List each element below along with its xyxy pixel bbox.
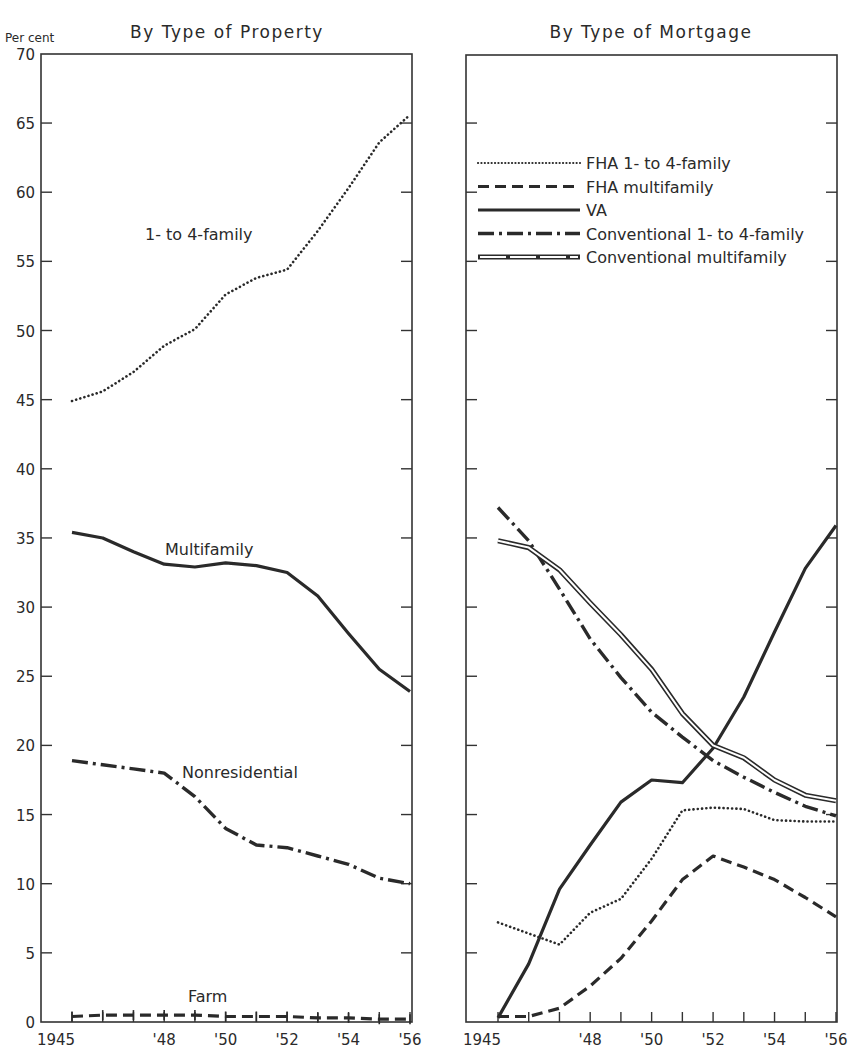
legend-label: Conventional 1- to 4-family xyxy=(586,225,804,244)
x-tick-label: '56 xyxy=(824,1031,847,1049)
plot-frame-mortgage xyxy=(466,55,837,1022)
y-tick-label: 20 xyxy=(16,737,35,755)
legend-item: FHA 1- to 4-family xyxy=(478,154,731,173)
legend: FHA 1- to 4-familyFHA multifamilyVAConve… xyxy=(478,154,804,267)
series-farm xyxy=(72,1015,410,1019)
y-tick-label: 40 xyxy=(16,461,35,479)
x-tick-label: '52 xyxy=(701,1031,724,1049)
series-label: Multifamily xyxy=(165,540,254,559)
y-tick-label: 15 xyxy=(16,807,35,825)
y-tick-label: 35 xyxy=(16,530,35,548)
legend-item: Conventional multifamily xyxy=(478,248,787,267)
x-tick-label: 1945 xyxy=(37,1031,75,1049)
series-conventional-1-to-4-family xyxy=(498,508,836,816)
y-axis-ticks: 0510152025303540455055606570 xyxy=(16,46,412,1032)
series-fha-1-to-4-family xyxy=(498,808,836,945)
series-label: 1- to 4-family xyxy=(145,225,253,244)
legend-label: FHA multifamily xyxy=(586,178,714,197)
y-tick-label: 0 xyxy=(25,1014,35,1032)
legend-label: VA xyxy=(586,201,607,220)
x-tick-label: '48 xyxy=(153,1031,176,1049)
series-conventional-multifamily-inner xyxy=(498,541,836,801)
y-tick-label: 55 xyxy=(16,253,35,271)
y-tick-label: 30 xyxy=(16,599,35,617)
panel-title-property: By Type of Property xyxy=(130,22,324,42)
panel-title-mortgage: By Type of Mortgage xyxy=(549,22,752,42)
x-tick-label: '54 xyxy=(763,1031,786,1049)
legend-item: Conventional 1- to 4-family xyxy=(478,225,804,244)
x-tick-label: '50 xyxy=(214,1031,237,1049)
panel-by-type-of-property: By Type of Property Per cent 05101520253… xyxy=(5,22,422,1049)
x-tick-label: '48 xyxy=(579,1031,602,1049)
y-tick-label: 60 xyxy=(16,184,35,202)
panel-by-type-of-mortgage: By Type of Mortgage 1945'48'50'52'54'56 … xyxy=(463,22,848,1049)
series-fha-multifamily xyxy=(498,856,836,1017)
series-conventional-multifamily-outer xyxy=(498,541,836,801)
legend-label: Conventional multifamily xyxy=(586,248,787,267)
series-va xyxy=(498,526,836,1018)
y-tick-label: 50 xyxy=(16,323,35,341)
x-tick-label: '52 xyxy=(275,1031,298,1049)
series-lines xyxy=(498,508,836,1018)
y-tick-label: 65 xyxy=(16,115,35,133)
legend-label: FHA 1- to 4-family xyxy=(586,154,731,173)
x-tick-label: '56 xyxy=(398,1031,421,1049)
y-tick-label: 25 xyxy=(16,668,35,686)
y-tick-label: 10 xyxy=(16,876,35,894)
series-labels: 1- to 4-familyMultifamilyNonresidentialF… xyxy=(145,225,298,1006)
x-tick-label: '50 xyxy=(640,1031,663,1049)
figure: By Type of Property Per cent 05101520253… xyxy=(0,0,854,1054)
legend-item: VA xyxy=(478,201,607,220)
y-tick-label: 70 xyxy=(16,46,35,64)
y-axis-label: Per cent xyxy=(5,31,55,45)
series-1-to-4-family xyxy=(72,115,410,401)
series-lines xyxy=(72,115,410,1024)
series-label: Farm xyxy=(188,987,227,1006)
y-tick-label: 45 xyxy=(16,392,35,410)
x-tick-label: 1945 xyxy=(463,1031,501,1049)
x-tick-label: '54 xyxy=(337,1031,360,1049)
y-tick-label: 5 xyxy=(25,945,35,963)
legend-item: FHA multifamily xyxy=(478,178,714,197)
series-label: Nonresidential xyxy=(182,763,298,782)
